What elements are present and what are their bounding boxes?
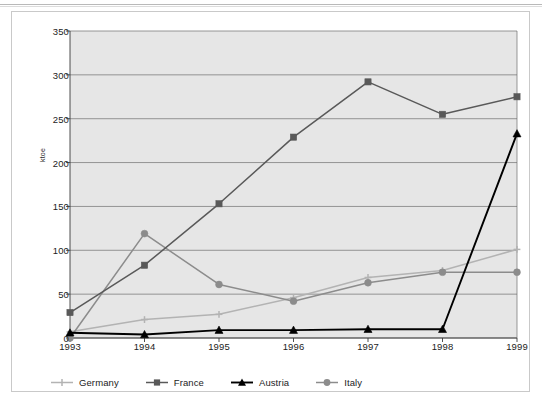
datapoint-france-1997 <box>365 79 371 85</box>
legend-item-italy[interactable]: Italy <box>315 377 362 388</box>
legend-marker-italy-icon <box>315 377 339 388</box>
y-tick-label-200: 200 <box>53 157 69 168</box>
legend-label-germany: Germany <box>79 377 119 388</box>
x-tick-label-1997: 1997 <box>357 341 379 352</box>
y-tick-label-150: 150 <box>53 201 69 212</box>
legend-item-austria[interactable]: Austria <box>230 377 289 388</box>
legend-item-france[interactable]: France <box>145 377 204 388</box>
datapoint-italy-1995 <box>216 281 223 288</box>
chart-figure-frame: ktoe 050100150200250300350 1993199419951… <box>11 11 530 392</box>
y-tick-label-350: 350 <box>53 26 69 37</box>
datapoint-france-1998 <box>439 111 445 117</box>
legend-label-italy: Italy <box>344 377 362 388</box>
legend-item-germany[interactable]: Germany <box>50 377 119 388</box>
datapoint-france-1999 <box>514 94 520 100</box>
datapoint-italy-1996 <box>290 298 297 305</box>
datapoint-france-1994 <box>141 262 147 268</box>
legend-label-france: France <box>174 377 204 388</box>
x-tick-label-1998: 1998 <box>432 341 454 352</box>
datapoint-france-1995 <box>216 201 222 207</box>
chart-canvas <box>12 12 531 393</box>
x-tick-label-1994: 1994 <box>134 341 156 352</box>
y-axis-tick-labels: 050100150200250300350 <box>37 12 69 393</box>
x-tick-label-1999: 1999 <box>506 341 528 352</box>
x-tick-label-1996: 1996 <box>283 341 305 352</box>
datapoint-france-1996 <box>290 134 296 140</box>
y-tick-label-50: 50 <box>58 289 69 300</box>
legend-marker-germany-icon <box>50 377 74 388</box>
datapoint-italy-1997 <box>365 279 372 286</box>
page-top-rule-secondary <box>0 6 542 7</box>
datapoint-italy-1998 <box>439 269 446 276</box>
legend-marker-austria-icon <box>230 377 254 388</box>
legend-marker-france-icon <box>145 377 169 388</box>
y-tick-label-250: 250 <box>53 113 69 124</box>
datapoint-italy-1999 <box>514 269 521 276</box>
plot-background <box>70 31 517 338</box>
y-tick-label-300: 300 <box>53 69 69 80</box>
chart-legend: GermanyFranceAustriaItaly <box>12 372 531 392</box>
x-axis-tick-labels: 1993199419951996199719981999 <box>12 341 531 357</box>
legend-label-austria: Austria <box>259 377 289 388</box>
y-tick-label-100: 100 <box>53 245 69 256</box>
x-tick-label-1993: 1993 <box>59 341 81 352</box>
x-tick-label-1995: 1995 <box>208 341 230 352</box>
datapoint-italy-1994 <box>141 230 148 237</box>
line-chart <box>12 12 531 393</box>
page-top-rule <box>0 4 542 5</box>
